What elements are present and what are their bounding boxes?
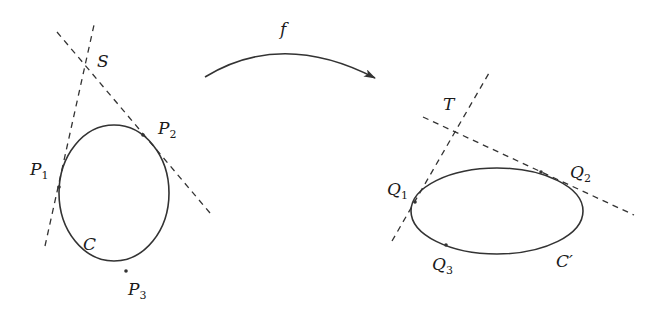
arrow-curve xyxy=(205,54,375,78)
label-f: f xyxy=(278,19,289,39)
label-t: T xyxy=(443,94,456,114)
point-p3-dot xyxy=(124,269,128,273)
label-s: S xyxy=(97,51,109,71)
label-p3: P3 xyxy=(127,279,146,302)
tangent-line-q2 xyxy=(423,117,634,215)
conic-c-prime xyxy=(411,168,583,254)
point-q2-dot xyxy=(539,170,543,174)
point-p2-dot xyxy=(141,133,145,137)
tangent-line-q1 xyxy=(392,73,489,241)
map-arrow: f xyxy=(205,19,375,78)
diagram-canvas: S P1 P2 P3 C f T Q1 Q2 Q3 C′ xyxy=(0,0,662,312)
point-q1-dot xyxy=(413,200,417,204)
label-curve-c: C xyxy=(83,234,96,254)
left-figure: S P1 P2 P3 C xyxy=(29,25,210,302)
label-p1: P1 xyxy=(29,159,48,182)
label-q3: Q3 xyxy=(432,254,453,277)
conic-c xyxy=(59,125,169,261)
label-curve-c-prime: C′ xyxy=(556,251,573,271)
label-p2: P2 xyxy=(157,118,176,141)
right-figure: T Q1 Q2 Q3 C′ xyxy=(387,73,634,277)
label-q1: Q1 xyxy=(387,179,408,202)
label-q2: Q2 xyxy=(570,162,591,185)
point-q3-dot xyxy=(444,243,448,247)
tangent-line-p1 xyxy=(45,25,94,246)
tangent-line-p2 xyxy=(57,32,210,213)
point-p1-dot xyxy=(57,185,61,189)
